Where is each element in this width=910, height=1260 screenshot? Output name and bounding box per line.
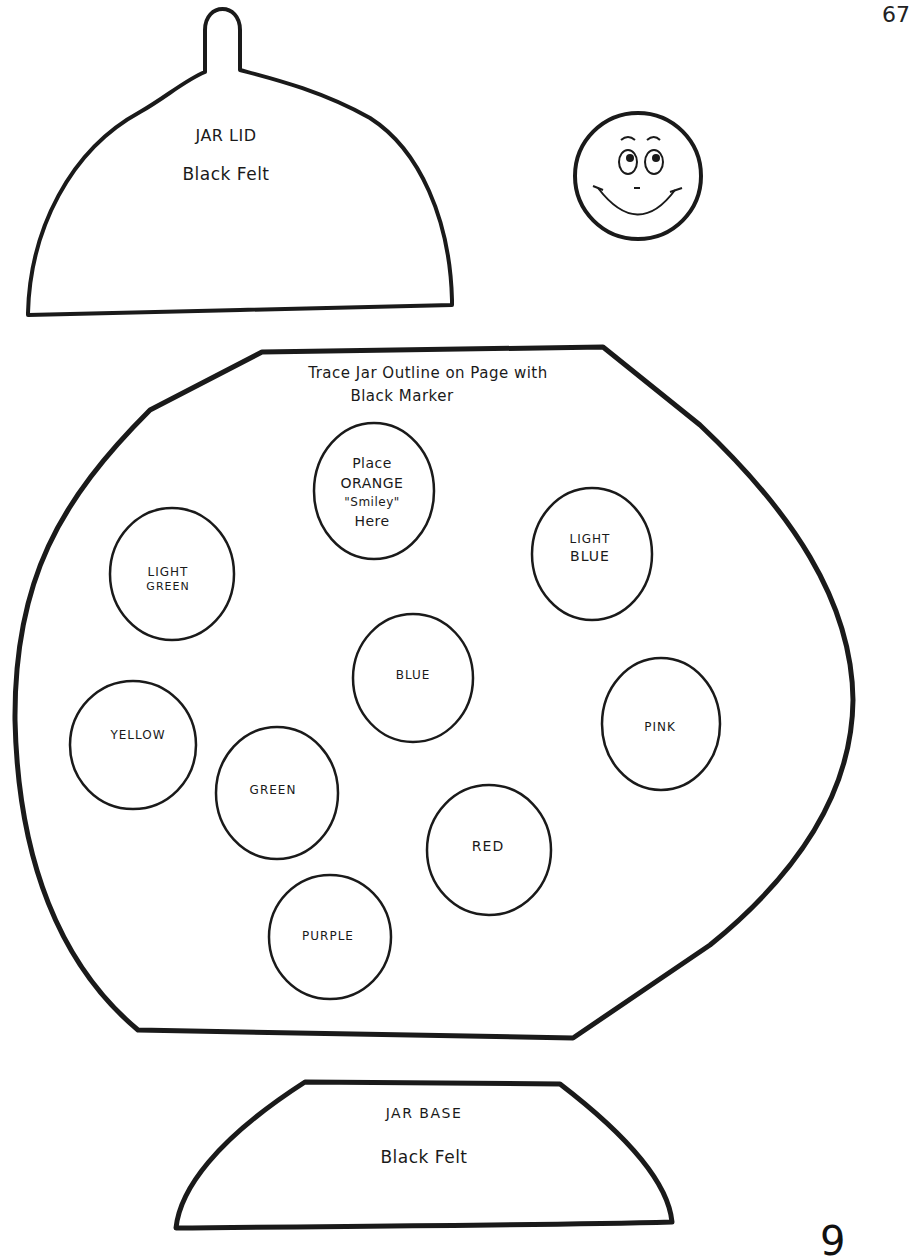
circle-label-red: RED [472, 837, 504, 856]
instruction-line-1: Trace Jar Outline on Page with [308, 363, 548, 383]
page-number: 67 [882, 2, 910, 27]
circle-label-light-blue: LIGHT BLUE [570, 531, 611, 566]
circle-label-smiley-spot: Place ORANGE "Smiley" Here [341, 453, 404, 531]
corner-mark: 9 [820, 1218, 845, 1260]
circle-label-blue: BLUE [396, 667, 431, 683]
circle-label-yellow: YELLOW [110, 727, 165, 743]
jar-base-title: JAR BASE [386, 1104, 463, 1123]
circle-label-pink: PINK [644, 719, 676, 735]
jar-base-material: Black Felt [380, 1146, 467, 1169]
instruction-line-2: Black Marker [350, 386, 453, 406]
jar-lid-material: Black Felt [182, 163, 269, 186]
jar-body-outline [15, 347, 853, 1038]
circle-label-purple: PURPLE [302, 928, 354, 944]
jar-lid-title: JAR LID [195, 125, 256, 147]
circle-yellow [70, 681, 196, 809]
circle-label-light-green: LIGHT GREEN [146, 564, 189, 595]
circle-label-green: GREEN [250, 782, 297, 798]
smiley-face-icon [575, 113, 701, 239]
